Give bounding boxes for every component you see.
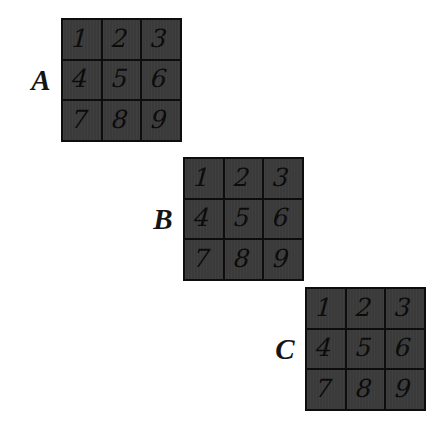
cell-digit: 7 <box>315 376 333 401</box>
figure-canvas: A 1 2 3 4 5 6 7 8 <box>0 0 445 425</box>
cell-digit: 1 <box>315 295 333 320</box>
grid-cell[interactable]: 2 <box>347 289 385 328</box>
grid-cell[interactable]: 9 <box>386 370 424 409</box>
grid-cell[interactable]: 8 <box>347 370 385 409</box>
grid-label-c: C <box>268 335 302 364</box>
cell-digit: 2 <box>355 295 373 320</box>
cell-digit: 5 <box>355 335 373 360</box>
number-grid-c: 1 2 3 4 5 6 7 8 9 <box>305 287 426 411</box>
cell-digit: 3 <box>394 295 412 320</box>
grid-cell[interactable]: 7 <box>307 370 345 409</box>
grid-cell[interactable]: 4 <box>307 330 345 369</box>
grid-cell[interactable]: 6 <box>386 330 424 369</box>
grid-group-c: C 1 2 3 4 5 6 7 8 <box>0 0 430 415</box>
cell-digit: 4 <box>315 335 333 360</box>
cell-digit: 8 <box>355 376 373 401</box>
grid-cell[interactable]: 3 <box>386 289 424 328</box>
grid-cell[interactable]: 5 <box>347 330 385 369</box>
cell-digit: 6 <box>394 335 412 360</box>
grid-cell[interactable]: 1 <box>307 289 345 328</box>
cell-digit: 9 <box>394 376 412 401</box>
